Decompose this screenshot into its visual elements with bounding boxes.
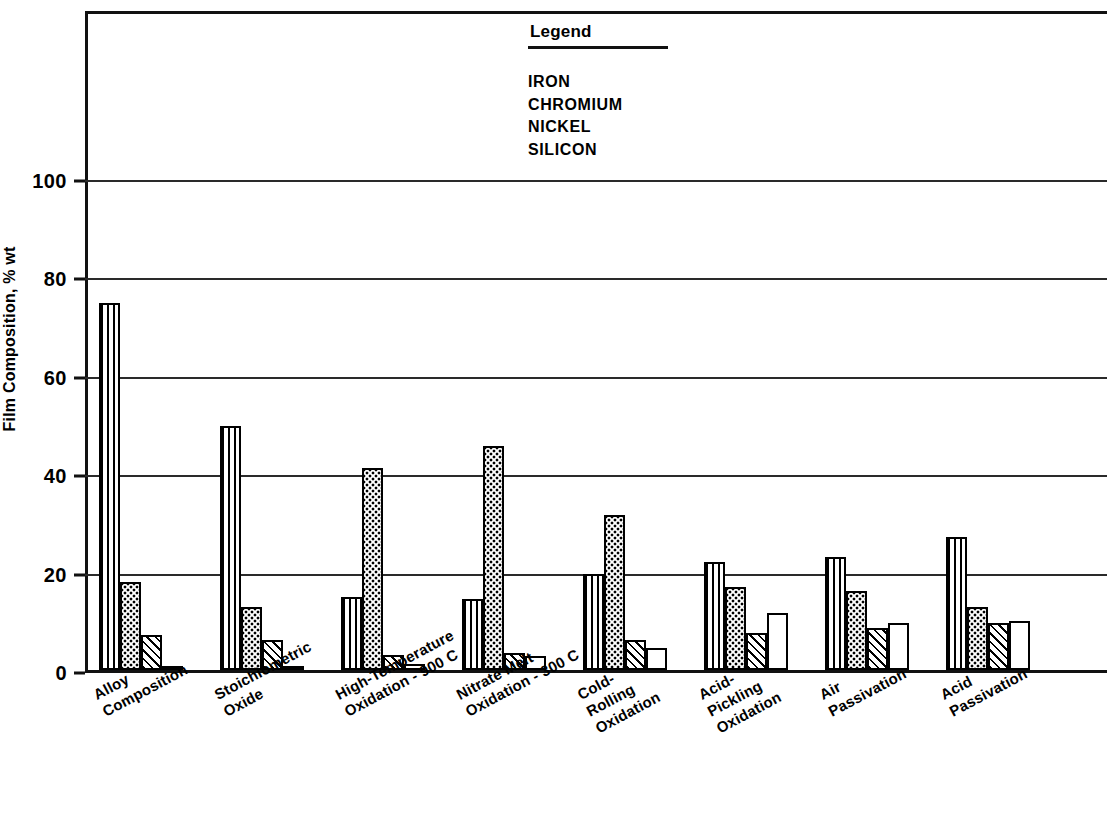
legend-entry-iron: IRON (528, 71, 778, 94)
bar-iron-7 (825, 557, 846, 670)
bar-iron-8 (946, 537, 967, 670)
bar-iron-4 (462, 599, 483, 670)
y-tick-label: 40 (11, 465, 67, 488)
legend-title: Legend (528, 22, 778, 42)
legend-entry-silicon: SILICON (528, 139, 778, 162)
bar-chromium-6 (725, 587, 746, 670)
bar-silicon-6 (767, 613, 788, 670)
legend: Legend IRONCHROMIUMNICKELSILICON (528, 22, 778, 161)
legend-entry-nickel: NICKEL (528, 116, 778, 139)
bar-chromium-4 (483, 446, 504, 670)
y-tick-label: 60 (11, 366, 67, 389)
bar-iron-1 (99, 303, 120, 670)
bar-iron-5 (583, 574, 604, 670)
y-tick-label: 0 (11, 662, 67, 685)
y-tick-label: 80 (11, 268, 67, 291)
y-tick-label: 20 (11, 563, 67, 586)
legend-items: IRONCHROMIUMNICKELSILICON (528, 71, 778, 161)
y-tick-mark (74, 475, 85, 478)
y-tick-label: 100 (11, 169, 67, 192)
bar-chart: Film Composition, % wt 020406080100 Lege… (0, 0, 1107, 816)
bar-iron-3 (341, 597, 362, 670)
y-tick-mark (74, 278, 85, 281)
y-tick-mark (74, 573, 85, 576)
bar-chromium-1 (120, 582, 141, 670)
y-tick-mark (74, 179, 85, 182)
legend-divider (528, 46, 668, 49)
bar-chromium-7 (846, 591, 867, 670)
bar-iron-2 (220, 426, 241, 670)
y-tick-mark (74, 672, 85, 675)
bar-chromium-5 (604, 515, 625, 670)
y-tick-mark (74, 376, 85, 379)
bar-chromium-3 (362, 468, 383, 670)
y-axis-title: Film Composition, % wt (1, 39, 19, 639)
legend-entry-chromium: CHROMIUM (528, 94, 778, 117)
bar-silicon-5 (646, 648, 667, 670)
bar-iron-6 (704, 562, 725, 670)
